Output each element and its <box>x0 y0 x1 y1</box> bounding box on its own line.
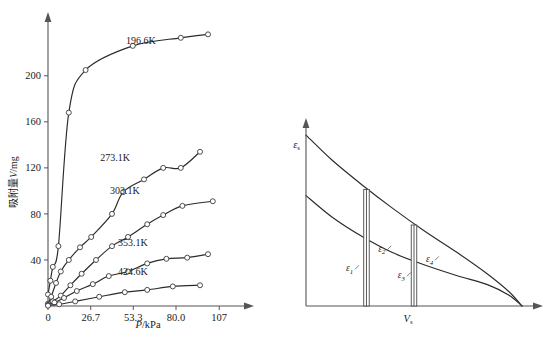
epsilon-2-label: ε2 <box>378 244 386 255</box>
data-point-marker <box>66 257 71 262</box>
curve-label-196.6K: 196.6K <box>126 35 157 46</box>
bar-left <box>364 189 370 306</box>
data-point-marker <box>46 303 51 308</box>
left-y-ticks: 4080120160200 <box>25 70 48 265</box>
right-x-axis-title: Vs <box>403 313 412 325</box>
left-curve-labels: 196.6K273.1K303.1K353.1K424.6K <box>100 35 156 277</box>
left-panel-adsorption-isotherms: 4080120160200 026.753.380.0107 196.6K273… <box>7 12 254 330</box>
data-point-marker <box>89 234 94 239</box>
right-annotations-group: ε1ε2ε3ε4 <box>346 244 439 282</box>
data-point-marker <box>145 222 150 227</box>
left-x-tick-label: 107 <box>211 312 227 323</box>
data-point-marker <box>178 165 183 170</box>
curve-label-424.6K: 424.6K <box>118 266 149 277</box>
data-point-marker <box>58 269 63 274</box>
epsilon-1-label: ε1 <box>346 263 353 274</box>
left-y-axis-title: 吸附量V/mg <box>7 156 19 208</box>
curve-label-273.1K: 273.1K <box>100 152 131 163</box>
epsilon-4-leader <box>435 256 439 260</box>
data-point-marker <box>164 256 169 261</box>
data-point-marker <box>94 257 99 262</box>
curve-label-303.1K: 303.1K <box>110 185 141 196</box>
left-y-tick-label: 120 <box>25 162 41 173</box>
scientific-figure-canvas: 4080120160200 026.753.380.0107 196.6K273… <box>0 0 557 344</box>
data-point-marker <box>90 282 95 287</box>
right-panel-characteristic-curves: ε1ε2ε3ε4 εs Vs <box>293 118 543 325</box>
isotherm-curve <box>48 254 208 305</box>
data-point-marker <box>54 280 59 285</box>
data-point-marker <box>78 245 83 250</box>
data-point-marker <box>198 149 203 154</box>
data-point-marker <box>161 165 166 170</box>
bar-right <box>411 225 417 306</box>
data-point-marker <box>106 274 111 279</box>
data-point-marker <box>210 199 215 204</box>
data-point-marker <box>206 32 211 37</box>
data-point-marker <box>178 35 183 40</box>
epsilon-1-leader <box>355 265 359 269</box>
data-point-marker <box>206 252 211 257</box>
left-y-tick-label: 160 <box>25 116 41 127</box>
right-axes <box>303 118 543 309</box>
isotherm-curve <box>48 152 200 304</box>
data-point-marker <box>142 177 147 182</box>
data-point-marker <box>185 255 190 260</box>
right-y-axis-title-sub: s <box>297 144 300 151</box>
data-point-marker <box>198 283 203 288</box>
data-point-marker <box>74 289 79 294</box>
left-x-tick-label: 0 <box>45 312 50 323</box>
left-x-axis-arrowhead <box>244 303 254 310</box>
curve-label-353.1K: 353.1K <box>118 237 149 248</box>
left-y-tick-label: 80 <box>31 209 42 220</box>
left-y-tick-label: 200 <box>25 70 41 81</box>
data-point-marker <box>122 290 127 295</box>
data-point-marker <box>66 110 71 115</box>
left-y-tick-label: 40 <box>31 255 42 266</box>
right-y-axis-arrowhead <box>303 118 310 128</box>
epsilon-4-label: ε4 <box>426 254 434 265</box>
data-point-marker <box>68 283 73 288</box>
left-x-tick-label: 80.0 <box>167 312 185 323</box>
data-point-marker <box>57 302 62 307</box>
data-point-marker <box>170 284 175 289</box>
data-point-marker <box>79 271 84 276</box>
right-y-axis-title: εs <box>293 139 300 151</box>
figure-root: 4080120160200 026.753.380.0107 196.6K273… <box>0 0 557 344</box>
left-x-axis-title: P/kPa <box>134 319 160 330</box>
right-x-axis-title-sub: s <box>410 318 413 325</box>
epsilon-3-leader <box>407 272 411 276</box>
data-point-marker <box>48 278 53 283</box>
data-point-marker <box>83 68 88 73</box>
data-point-marker <box>50 264 55 269</box>
data-point-marker <box>110 211 115 216</box>
data-point-marker <box>73 299 78 304</box>
data-point-marker <box>110 244 115 249</box>
right-x-axis-arrowhead <box>533 303 543 310</box>
data-point-marker <box>97 294 102 299</box>
isotherm-curve <box>48 285 200 305</box>
data-point-marker <box>145 287 150 292</box>
data-point-marker <box>62 295 67 300</box>
epsilon-2-leader <box>387 246 391 250</box>
epsilon-3-label: ε3 <box>398 270 406 281</box>
isotherm-curve <box>48 201 213 305</box>
left-x-tick-label: 26.7 <box>82 312 100 323</box>
data-point-marker <box>56 244 61 249</box>
left-y-axis-arrowhead <box>45 12 52 22</box>
data-point-marker <box>161 213 166 218</box>
data-point-marker <box>180 203 185 208</box>
